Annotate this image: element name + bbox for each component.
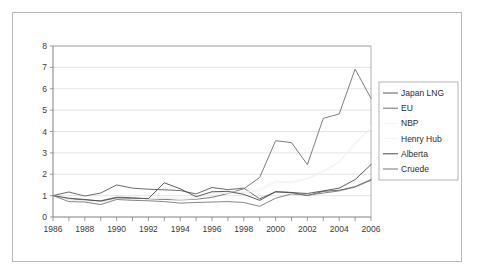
legend-label-henry-hub: Henry Hub — [401, 134, 442, 144]
x-tick-label-1996: 1996 — [203, 224, 222, 234]
y-tick-label-4: 4 — [42, 127, 47, 137]
y-tick-label-7: 7 — [42, 62, 47, 72]
legend-label-alberta: Alberta — [401, 149, 428, 159]
legend-label-eu: EU — [401, 103, 413, 113]
chart-figure-frame: 012345678 198619881990199219941996199820… — [12, 12, 462, 262]
chart-legend: Japan LNGEUNBPHenry HubAlbertaCruede — [379, 82, 458, 180]
legend-label-cruede: Cruede — [401, 164, 429, 174]
legend-label-japan-lng: Japan LNG — [401, 88, 444, 98]
x-tick-label-1986: 1986 — [44, 224, 63, 234]
x-tick-label-1992: 1992 — [139, 224, 158, 234]
chart-svg: 012345678 198619881990199219941996199820… — [13, 13, 463, 263]
x-tick-label-2000: 2000 — [266, 224, 285, 234]
data-series-group — [53, 69, 371, 206]
y-tick-label-3: 3 — [42, 148, 47, 158]
line-chart: 012345678 198619881990199219941996199820… — [13, 13, 463, 263]
x-tick-marks-group — [53, 217, 371, 221]
y-tick-label-5: 5 — [42, 105, 47, 115]
y-tick-label-6: 6 — [42, 84, 47, 94]
x-tick-label-2002: 2002 — [298, 224, 317, 234]
y-axis-tick-labels: 012345678 — [42, 41, 47, 222]
y-tick-label-0: 0 — [42, 212, 47, 222]
x-axis-tick-labels: 1986198819901992199419961998200020022004… — [44, 224, 381, 234]
x-tick-label-2004: 2004 — [330, 224, 349, 234]
legend-label-nbp: NBP — [401, 118, 419, 128]
x-tick-label-1990: 1990 — [107, 224, 126, 234]
y-tick-label-1: 1 — [42, 191, 47, 201]
x-tick-label-1994: 1994 — [171, 224, 190, 234]
x-tick-label-2006: 2006 — [362, 224, 381, 234]
y-tick-label-2: 2 — [42, 169, 47, 179]
x-tick-label-1998: 1998 — [234, 224, 253, 234]
x-tick-label-1988: 1988 — [75, 224, 94, 234]
y-tick-label-8: 8 — [42, 41, 47, 51]
